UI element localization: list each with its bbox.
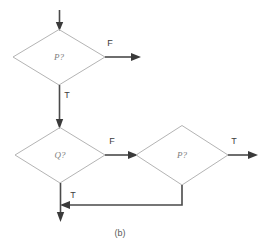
edge-p-top-false: F xyxy=(105,38,141,61)
decision-node-q-label: Q? xyxy=(55,150,66,160)
edge-label-p-top-false: F xyxy=(107,38,113,48)
decision-node-p-right-label: P? xyxy=(176,150,187,160)
figure-caption: (b) xyxy=(115,228,126,238)
edge-label-p-top-true: T xyxy=(64,90,70,100)
edge-q-false: F xyxy=(105,136,138,159)
decision-node-p-top-label: P? xyxy=(53,52,64,62)
flowchart-canvas: P? F T Q? F P? xyxy=(0,0,271,252)
edge-p-right-false-feedback xyxy=(60,185,182,209)
decision-node-p-top: P? xyxy=(13,30,105,86)
flowchart-diagram: P? F T Q? F P? xyxy=(0,0,271,252)
edge-label-q-false: F xyxy=(109,136,115,146)
edge-p-right-true: T xyxy=(228,136,258,159)
entry-arrow xyxy=(56,10,63,31)
edge-label-q-true: T xyxy=(70,190,76,200)
edge-label-p-right-true: T xyxy=(231,136,237,146)
decision-node-p-right: P? xyxy=(136,126,228,186)
edge-p-top-true: T xyxy=(56,85,70,129)
decision-node-q: Q? xyxy=(15,128,105,184)
